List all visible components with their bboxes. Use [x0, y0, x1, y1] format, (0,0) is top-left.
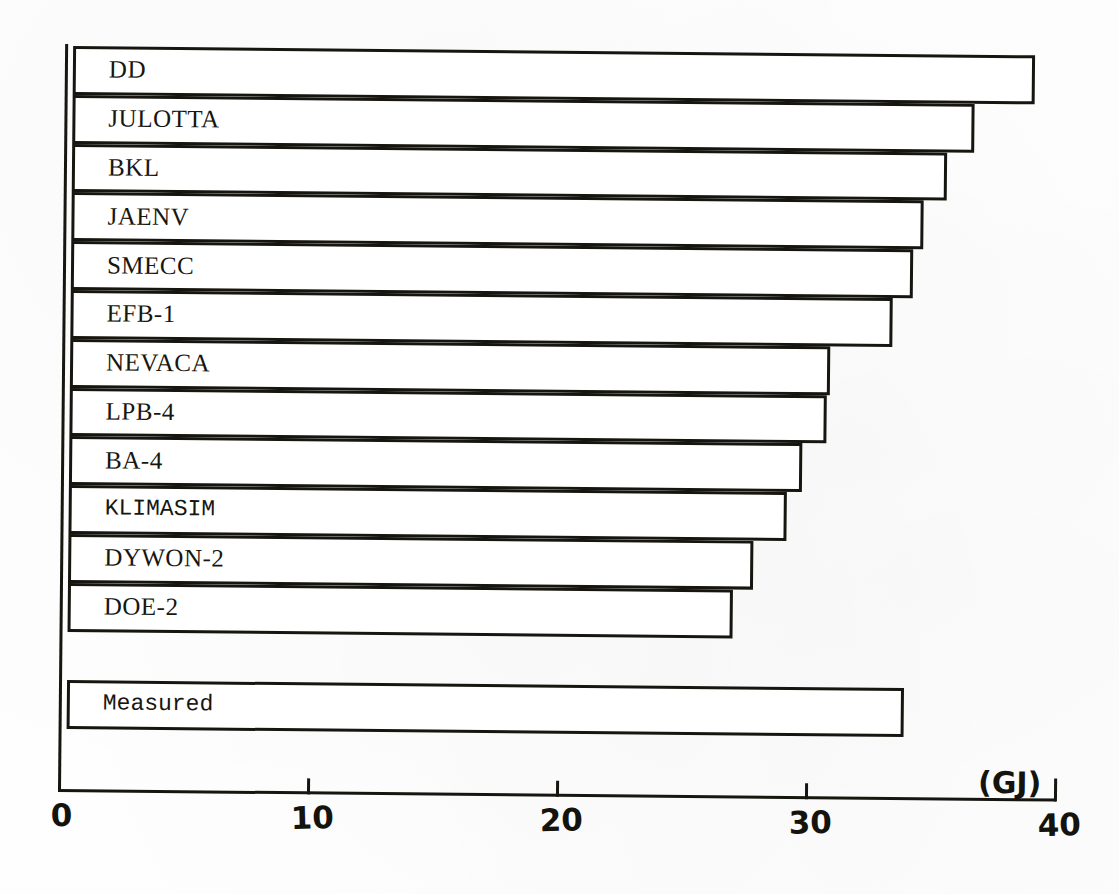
bar-label: SMECC	[107, 251, 195, 280]
x-axis-tick-label: 40	[1037, 806, 1081, 843]
bar-label: JAENV	[107, 202, 189, 231]
bars-layer: DDJULOTTABKLJAENVSMECCEFB-1NEVACALPB-4BA…	[8, 0, 1119, 10]
x-axis-tick-label: 20	[539, 801, 583, 838]
bar-label: NEVACA	[106, 349, 210, 378]
x-axis-ticks: 010203040	[8, 0, 1119, 10]
bar-label: EFB-1	[106, 300, 175, 329]
bar-chart: DDJULOTTABKLJAENVSMECCEFB-1NEVACALPB-4BA…	[0, 0, 1119, 894]
bar-label: BA-4	[105, 446, 163, 475]
plot-area: DDJULOTTABKLJAENVSMECCEFB-1NEVACALPB-4BA…	[0, 0, 1119, 894]
x-axis-tick	[1054, 779, 1057, 802]
bar	[69, 436, 802, 492]
bar	[70, 290, 893, 347]
bar-label: DYWON-2	[104, 544, 224, 573]
bar	[72, 144, 947, 201]
bar-label: JULOTTA	[108, 105, 219, 134]
bar-label: DOE-2	[104, 593, 179, 622]
x-axis-tick-label: 10	[290, 799, 334, 836]
bar	[71, 192, 923, 249]
x-axis-tick	[805, 783, 808, 799]
x-axis-unit-label: (GJ)	[978, 765, 1042, 801]
x-axis-tick-label: 0	[50, 797, 72, 834]
bar	[71, 241, 914, 298]
bar-label: Measured	[103, 690, 214, 717]
bar-label: KLIMASIM	[105, 495, 216, 522]
x-axis-tick	[556, 781, 559, 797]
bar-label: DD	[109, 56, 146, 84]
x-axis-tick	[307, 778, 310, 794]
bar-label: LPB-4	[106, 397, 175, 426]
x-axis-tick-label: 30	[788, 804, 832, 841]
bar-label: BKL	[108, 153, 160, 181]
bar	[69, 388, 827, 444]
